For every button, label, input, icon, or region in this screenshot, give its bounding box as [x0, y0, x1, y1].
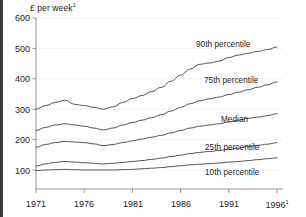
- x-tick-label-1996: 19961: [265, 199, 288, 210]
- series-label-25th-percentile: 25th percentile: [205, 143, 259, 152]
- series-lines-group: [36, 47, 277, 171]
- y-tick-label-200: 200: [4, 135, 30, 145]
- chart-figure: £ per week1 600 500 400 300 200 100 1971…: [0, 0, 306, 217]
- x-tick-label-footnote-marker: 1: [285, 199, 288, 205]
- series-label-median: Median: [221, 115, 248, 124]
- series-label-75th-percentile: 75th percentile: [204, 76, 258, 85]
- x-tick-label-1981: 1981: [123, 199, 143, 209]
- y-axis-ticks-group: [33, 18, 37, 170]
- x-tick-label-1971: 1971: [26, 199, 46, 209]
- chart-plot-area: [0, 0, 306, 217]
- x-axis-ticks-group: [36, 189, 277, 193]
- x-tick-label-1996-text: 1996: [265, 200, 285, 210]
- series-label-90th-percentile: 90th percentile: [196, 40, 250, 49]
- x-tick-label-1991: 1991: [219, 199, 239, 209]
- y-tick-label-300: 300: [4, 105, 30, 115]
- y-tick-label-100: 100: [4, 166, 30, 176]
- y-tick-label-500: 500: [4, 44, 30, 54]
- x-tick-label-1976: 1976: [74, 199, 94, 209]
- series-label-10th-percentile: 10th percentile: [205, 168, 259, 177]
- y-tick-label-600: 600: [4, 13, 30, 23]
- x-tick-label-1986: 1986: [171, 199, 191, 209]
- y-tick-label-400: 400: [4, 74, 30, 84]
